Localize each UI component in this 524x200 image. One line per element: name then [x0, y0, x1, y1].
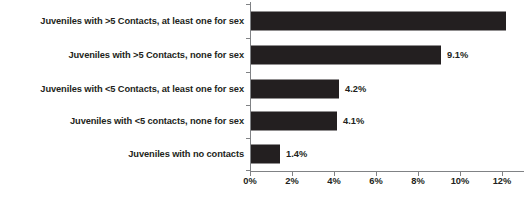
x-axis-label-2: 4% — [327, 176, 340, 186]
x-axis-label-0: 0% — [243, 176, 256, 186]
bar-1 — [251, 46, 441, 65]
x-axis-label-4: 8% — [411, 176, 424, 186]
category-label-4: Juveniles with no contacts — [0, 149, 244, 159]
x-axis-label-6: 12% — [493, 176, 512, 186]
x-axis-label-1: 2% — [285, 176, 298, 186]
x-axis-label-5: 10% — [451, 176, 470, 186]
bar-value-2: 4.2% — [345, 84, 366, 94]
y-axis-tick — [246, 4, 250, 5]
category-label-3: Juveniles with <5 contacts, none for sex — [0, 116, 244, 126]
bar-4 — [251, 145, 280, 164]
bar-0 — [251, 12, 506, 31]
y-axis-tick — [246, 72, 250, 73]
y-axis-tick — [246, 105, 250, 106]
category-label-2: Juveniles with <5 Contacts, at least one… — [0, 84, 244, 94]
category-label-1: Juveniles with >5 Contacts, none for sex — [0, 50, 244, 60]
plot-area: 9.1% 4.2% 4.1% 1.4% — [250, 0, 524, 172]
bar-value-4: 1.4% — [286, 149, 307, 159]
bar-3 — [251, 112, 337, 131]
bar-value-3: 4.1% — [343, 116, 364, 126]
bar-2 — [251, 80, 339, 99]
category-axis-labels: Juveniles with >5 Contacts, at least one… — [0, 0, 244, 172]
y-axis-tick — [246, 170, 250, 171]
bar-value-1: 9.1% — [447, 50, 468, 60]
x-axis-label-3: 6% — [369, 176, 382, 186]
y-axis-tick — [246, 138, 250, 139]
y-axis-tick — [246, 38, 250, 39]
horizontal-bar-chart: Juveniles with >5 Contacts, at least one… — [0, 0, 524, 200]
category-label-0: Juveniles with >5 Contacts, at least one… — [0, 16, 244, 26]
x-axis-labels: 0% 2% 4% 6% 8% 10% 12% — [250, 176, 524, 192]
